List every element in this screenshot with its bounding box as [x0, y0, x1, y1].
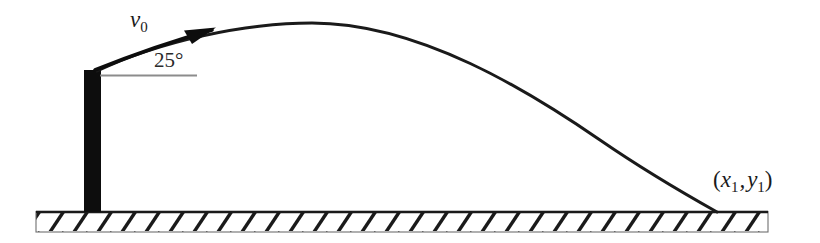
velocity-subscript: 0 [140, 19, 148, 35]
velocity-symbol: v [130, 7, 140, 32]
initial-velocity-label: v0 [130, 8, 148, 35]
landing-comma: , [739, 167, 745, 192]
velocity-arrowhead [184, 28, 216, 45]
ground-group [36, 212, 768, 233]
landing-y-symbol: y [747, 167, 757, 192]
trajectory-curve [97, 23, 717, 212]
landing-point-label: (x1,y1) [713, 168, 773, 195]
paren-close: ) [765, 167, 773, 192]
landing-y-subscript: 1 [757, 179, 765, 195]
landing-x-symbol: x [721, 167, 731, 192]
projectile-diagram: v0 25° (x1,y1) [0, 0, 820, 243]
launch-angle-label: 25° [154, 50, 183, 71]
ground-hatched-band [36, 212, 768, 233]
diagram-canvas [0, 0, 820, 243]
paren-open: ( [713, 167, 721, 192]
launch-platform-pole [84, 70, 101, 212]
landing-x-subscript: 1 [731, 179, 739, 195]
